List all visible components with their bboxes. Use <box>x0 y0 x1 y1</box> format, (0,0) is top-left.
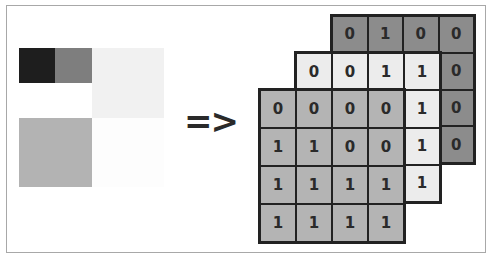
grid-cell: 1 <box>297 205 331 241</box>
light-gray-region <box>92 48 164 118</box>
grid-cell: 1 <box>369 205 403 241</box>
grid-cell: 1 <box>405 129 439 164</box>
grid-cell: 0 <box>333 91 367 127</box>
grid-cell: 1 <box>369 167 403 203</box>
grid-cell: 1 <box>369 17 403 52</box>
grid-cell: 1 <box>333 205 367 241</box>
grid-cell: 0 <box>369 91 403 127</box>
white-region <box>92 118 164 187</box>
grid-cell: 1 <box>333 167 367 203</box>
grid-cell: 1 <box>261 129 295 165</box>
grid-cell: 0 <box>440 91 474 126</box>
grid-cell: 0 <box>440 127 474 162</box>
grid-cell: 1 <box>369 54 403 89</box>
transform-arrow: => <box>184 104 237 138</box>
grid-cell: 0 <box>369 129 403 165</box>
mid-gray-region <box>19 118 92 187</box>
grid-cell: 1 <box>261 167 295 203</box>
white-region-left <box>19 83 92 118</box>
grid-cell: 0 <box>261 91 295 127</box>
grid-cell: 0 <box>297 54 331 89</box>
grid-cell: 0 <box>440 17 474 52</box>
grid-cell: 1 <box>297 129 331 165</box>
grid-cell: 0 <box>333 17 367 52</box>
grid-cell: 1 <box>405 54 439 89</box>
grid-cell: 0 <box>297 91 331 127</box>
grid-cell: 0 <box>404 17 438 52</box>
grid-cell: 1 <box>405 166 439 201</box>
grid-cell: 1 <box>261 205 295 241</box>
grid-cell: 0 <box>333 129 367 165</box>
front-channel-grid: 0 0 0 0 1 1 0 0 1 1 1 1 1 1 1 1 <box>258 88 406 244</box>
gray-pixel <box>55 48 92 83</box>
grid-cell: 1 <box>405 91 439 126</box>
dark-pixel <box>19 48 55 83</box>
grid-cell: 1 <box>297 167 331 203</box>
grid-cell: 0 <box>333 54 367 89</box>
grid-cell: 0 <box>440 54 474 89</box>
